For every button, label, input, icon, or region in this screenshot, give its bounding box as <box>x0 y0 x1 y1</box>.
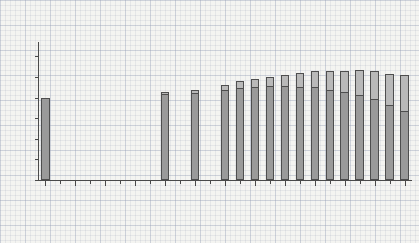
x-axis-tick <box>210 181 211 184</box>
bar-2001-02 <box>311 71 320 180</box>
household-waste-chart <box>0 0 419 243</box>
x-axis-tick <box>180 181 181 184</box>
x-axis-tick <box>345 181 346 186</box>
x-axis-tick <box>195 181 196 186</box>
x-axis-tick <box>45 181 46 186</box>
bar-1997-98 <box>251 79 260 180</box>
bar-2000-01 <box>296 73 305 180</box>
bar-2002-03 <box>326 71 335 180</box>
bar-1995-96 <box>221 85 230 180</box>
x-axis-tick <box>150 181 151 184</box>
bar-2004-05 <box>355 70 364 180</box>
x-axis-tick <box>225 181 226 186</box>
y-axis-tick <box>35 77 38 78</box>
bar-segment-recycled <box>251 79 260 88</box>
y-axis-tick <box>35 139 38 140</box>
bar-2006-07 <box>385 74 394 180</box>
bar-segment-recycled <box>355 70 364 96</box>
y-axis-tick <box>35 56 38 57</box>
bar-segment-not-recycled <box>326 90 335 180</box>
bar-segment-not-recycled <box>266 86 275 180</box>
bar-1998-99 <box>266 77 275 180</box>
bar-segment-recycled <box>400 75 409 112</box>
bar-segment-recycled <box>221 85 230 91</box>
bar-2003-04 <box>340 71 349 180</box>
x-axis-tick <box>75 181 76 186</box>
bar-1991-92 <box>161 92 170 180</box>
x-axis-tick <box>255 181 256 186</box>
bar-segment-not-recycled <box>340 92 349 180</box>
bar-segment-recycled <box>340 71 349 94</box>
x-axis-tick <box>375 181 376 186</box>
y-axis-tick <box>35 98 38 99</box>
bar-segment-not-recycled <box>221 90 230 180</box>
bar-segment-recycled <box>191 90 200 94</box>
bar-segment-not-recycled <box>385 105 394 180</box>
x-axis-tick <box>390 181 391 184</box>
y-axis-line <box>38 42 39 181</box>
x-axis-tick <box>270 181 271 184</box>
y-axis-tick <box>35 180 38 181</box>
bar-segment-recycled <box>385 74 394 106</box>
bar-segment-not-recycled <box>161 94 170 180</box>
x-axis-tick <box>405 181 406 186</box>
x-axis-tick <box>285 181 286 186</box>
bar-1983-84 <box>41 98 50 180</box>
bar-segment-not-recycled <box>191 93 200 180</box>
bar-segment-not-recycled <box>251 87 260 180</box>
x-axis-tick <box>330 181 331 184</box>
bar-segment-recycled <box>326 71 335 91</box>
bar-segment-not-recycled <box>370 99 379 180</box>
x-axis-tick <box>165 181 166 186</box>
bar-segment-not-recycled <box>41 98 50 180</box>
bar-segment-not-recycled <box>281 86 290 180</box>
bar-segment-not-recycled <box>355 95 364 180</box>
bar-segment-recycled <box>296 73 305 87</box>
bar-segment-not-recycled <box>236 88 245 180</box>
bar-segment-recycled <box>161 92 170 95</box>
x-axis-tick <box>300 181 301 184</box>
bar-2005-06 <box>370 71 379 180</box>
bar-segment-recycled <box>370 71 379 100</box>
bar-segment-not-recycled <box>296 87 305 180</box>
bar-segment-not-recycled <box>311 87 320 180</box>
y-axis-tick <box>35 159 38 160</box>
bar-1996-97 <box>236 81 245 180</box>
x-axis-tick <box>240 181 241 184</box>
x-axis-tick <box>315 181 316 186</box>
x-axis-tick <box>135 181 136 186</box>
y-axis-tick <box>35 118 38 119</box>
bar-1993-94 <box>191 90 200 180</box>
bar-segment-recycled <box>236 81 245 89</box>
x-axis-tick <box>90 181 91 184</box>
bar-1999-00 <box>281 75 290 180</box>
bar-segment-recycled <box>311 71 320 89</box>
bar-segment-recycled <box>266 77 275 88</box>
x-axis-tick <box>60 181 61 184</box>
x-axis-tick <box>105 181 106 186</box>
bar-2007-08 <box>400 75 409 180</box>
bar-segment-not-recycled <box>400 110 409 180</box>
bar-segment-recycled <box>281 75 290 87</box>
x-axis-tick <box>360 181 361 184</box>
x-axis-tick <box>120 181 121 184</box>
